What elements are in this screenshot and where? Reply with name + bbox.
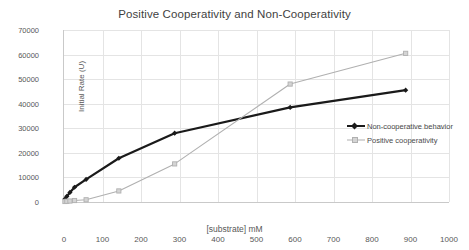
y-tick-label: 20000 [0, 148, 39, 157]
data-point-marker [117, 189, 121, 193]
y-tick-label: 40000 [0, 99, 39, 108]
x-tick-label: 200 [121, 235, 161, 244]
series-plot [63, 30, 448, 202]
data-point-marker [84, 198, 88, 202]
data-point-marker [72, 198, 76, 202]
gridline-vertical [449, 30, 450, 202]
data-point-marker [404, 51, 408, 55]
x-tick-label: 500 [237, 235, 277, 244]
x-tick-label: 400 [198, 235, 238, 244]
x-tick-label: 300 [160, 235, 200, 244]
x-tick-label: 800 [352, 235, 392, 244]
chart-title: Positive Cooperativity and Non-Cooperati… [0, 8, 469, 20]
data-point-marker [288, 105, 293, 110]
chart-container: Positive Cooperativity and Non-Cooperati… [0, 0, 469, 250]
x-tick-label: 700 [314, 235, 354, 244]
x-tick-label: 0 [44, 235, 84, 244]
legend-label: Non-cooperative behavior [365, 122, 453, 131]
y-tick-label: 60000 [0, 50, 39, 59]
data-point-marker [288, 82, 292, 86]
x-tick-label: 1000 [429, 235, 469, 244]
chart-legend: Non-cooperative behaviorPositive coopera… [347, 119, 465, 147]
legend-swatch-icon [347, 121, 365, 131]
data-point-marker [173, 162, 177, 166]
legend-item-2[interactable]: Positive cooperativity [347, 133, 465, 147]
x-tick-label: 100 [83, 235, 123, 244]
y-tick-label: 50000 [0, 75, 39, 84]
legend-label: Positive cooperativity [365, 136, 437, 145]
x-axis-title: [substrate] mM [0, 224, 469, 234]
x-tick-label: 600 [275, 235, 315, 244]
y-tick-label: 30000 [0, 124, 39, 133]
y-tick-label: 10000 [0, 173, 39, 182]
legend-item-1[interactable]: Non-cooperative behavior [347, 119, 465, 133]
y-tick-label: 70000 [0, 26, 39, 35]
legend-swatch-icon [347, 135, 365, 145]
x-tick-label: 900 [391, 235, 431, 244]
data-point-marker [68, 199, 72, 203]
y-tick-label: 0 [0, 198, 39, 207]
data-point-marker [403, 88, 408, 93]
